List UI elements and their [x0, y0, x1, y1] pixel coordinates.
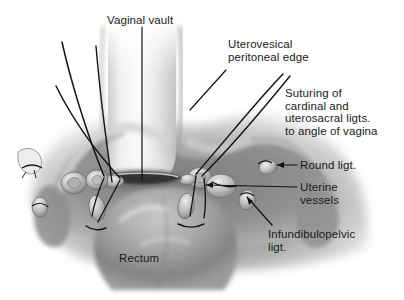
label-uterine-vessels: Uterine vessels — [300, 181, 339, 206]
left-clamp-mid-inner — [92, 176, 102, 185]
label-suturing-cardinal-uterosacral: Suturing of cardinal and uterosacral lig… — [285, 87, 378, 137]
label-vaginal-vault: Vaginal vault — [107, 14, 173, 27]
anatomy-figure — [0, 0, 404, 300]
left-clamp-inner — [68, 178, 81, 189]
label-uterovesical-peritoneal-edge: Uterovesical peritoneal edge — [228, 38, 309, 63]
label-infundibulopelvic-ligt: Infundibulopelvic ligt. — [268, 228, 355, 253]
label-rectum: Rectum — [119, 252, 159, 265]
lower-left-stump — [32, 197, 48, 217]
rectum-mass — [94, 188, 238, 290]
label-round-ligt: Round ligt. — [300, 159, 356, 172]
illustration-root: Vaginal vaultUterovesical peritoneal edg… — [0, 0, 404, 300]
lower-left-stump-body — [32, 197, 48, 217]
